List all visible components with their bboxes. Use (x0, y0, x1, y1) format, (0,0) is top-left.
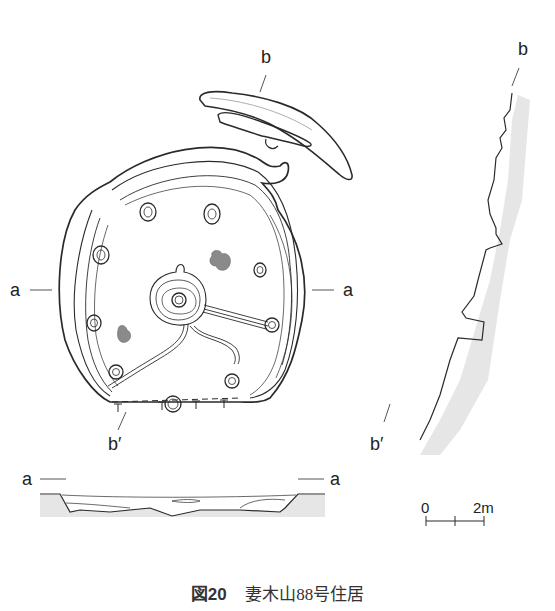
section-label-a-right-profile: a (330, 470, 340, 488)
section-label-b-prime-plan: b′ (108, 435, 121, 453)
section-label-a-left-plan: a (10, 281, 20, 299)
figure-title: 妻木山88号住居 (245, 585, 364, 604)
section-label-b-profile: b (518, 40, 528, 58)
scale-bar (426, 516, 484, 526)
dwelling-outline (59, 147, 304, 402)
profile-a (40, 479, 325, 517)
gray-features (117, 250, 230, 342)
figure-caption: 図20 妻木山88号住居 (0, 580, 555, 605)
profile-b (384, 68, 530, 455)
drainage-channels (108, 305, 268, 388)
section-label-a-left-profile: a (22, 470, 32, 488)
section-label-b-plan: b (261, 48, 271, 66)
section-label-a-right-plan: a (343, 281, 353, 299)
scale-start-label: 0 (421, 500, 429, 515)
scale-end-label: 2m (473, 500, 494, 515)
central-hearth (150, 265, 206, 326)
site-drawing (0, 0, 555, 611)
figure-number: 図20 (191, 585, 227, 604)
section-label-b-prime-profile: b′ (370, 435, 383, 453)
postholes (87, 203, 279, 412)
plan-view (30, 75, 352, 430)
